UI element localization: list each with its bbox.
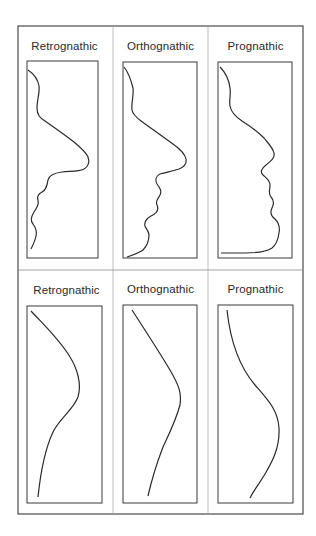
- facial-profile-diagram: Retrognathic Orthognathic Prognathic Ret…: [0, 0, 316, 536]
- panel-box-bottom-orthognathic: [123, 305, 197, 503]
- simplified-curve-bottom-prognathic: [227, 310, 279, 498]
- panel-box-bottom-prognathic: [218, 305, 293, 503]
- simplified-curve-bottom-orthognathic: [132, 310, 181, 496]
- simplified-curve-bottom-retrognathic: [31, 311, 79, 497]
- panel-box-top-prognathic: [218, 62, 292, 258]
- panel-label-top-prognathic: Prognathic: [208, 40, 303, 52]
- panel-label-top-orthognathic: Orthognathic: [113, 40, 208, 52]
- panel-label-top-retrognathic: Retrognathic: [17, 40, 112, 52]
- panel-box-bottom-retrognathic: [27, 306, 102, 503]
- diagram-lines: [0, 0, 316, 536]
- panel-box-top-retrognathic: [27, 61, 98, 258]
- profile-curve-top-prognathic: [220, 67, 279, 253]
- panel-label-bottom-retrognathic: Retrognathic: [19, 284, 114, 296]
- panel-label-bottom-prognathic: Prognathic: [208, 283, 303, 295]
- panel-label-bottom-orthognathic: Orthognathic: [113, 283, 208, 295]
- profile-curve-top-orthognathic: [124, 67, 186, 257]
- profile-curve-top-retrognathic: [28, 70, 89, 249]
